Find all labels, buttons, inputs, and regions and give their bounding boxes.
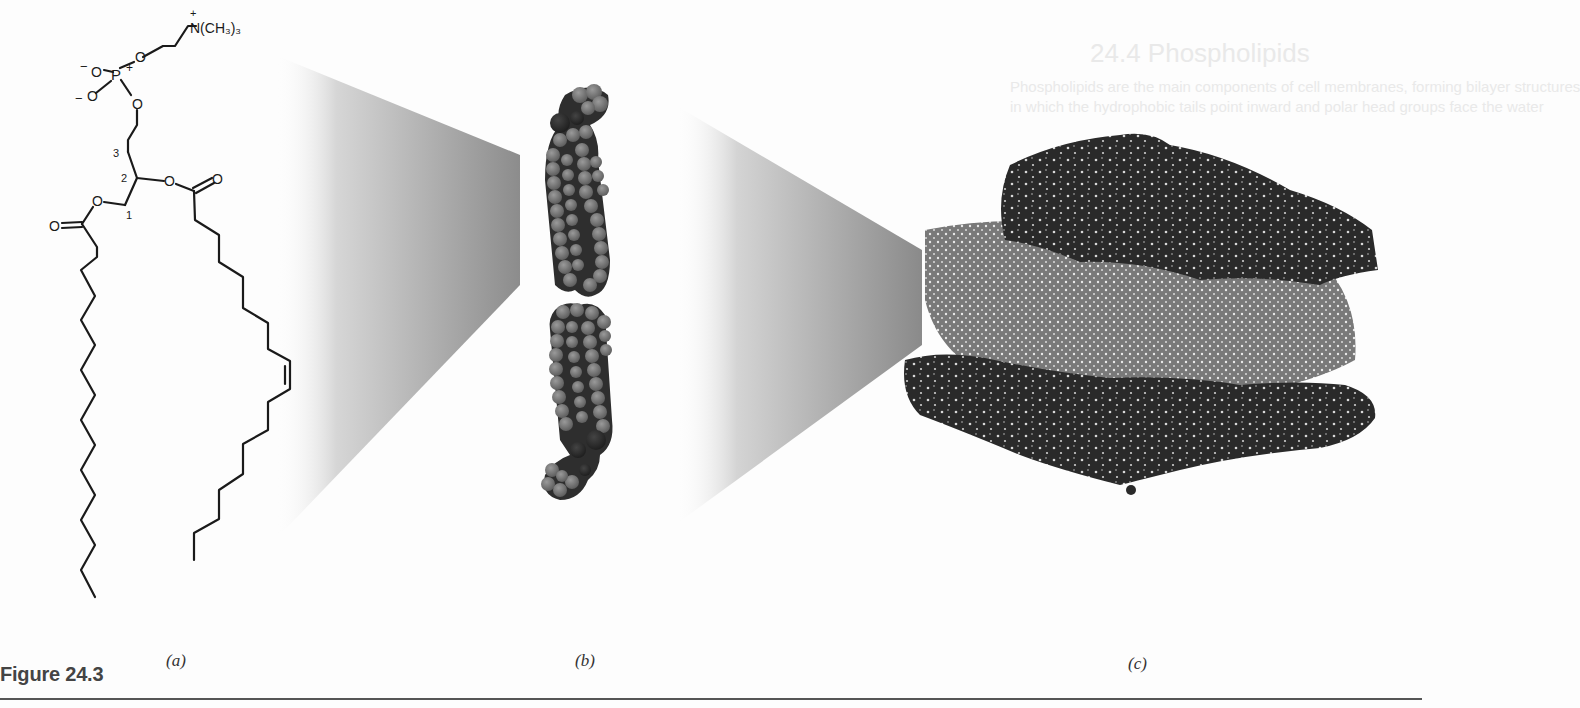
zoom-wedge-a-to-b xyxy=(275,55,520,540)
lower-phospholipid xyxy=(541,303,613,500)
oxygen-atom: O xyxy=(212,171,223,187)
oxygen-atom: O xyxy=(87,88,98,104)
structural-formula-labels: N(CH₃)₃ + O P + O − O − O 3 2 1 O O O O xyxy=(49,7,241,234)
trimethylammonium-label: N(CH₃)₃ xyxy=(190,20,241,36)
oxygen-atom: O xyxy=(91,64,102,80)
panel-label-c: (c) xyxy=(1128,654,1147,674)
ammonium-charge: + xyxy=(190,7,196,19)
caption-rule xyxy=(0,698,1422,700)
zoom-wedge-b-to-c xyxy=(675,105,922,525)
structural-formula xyxy=(62,26,290,597)
glycerol-carbon-1: 1 xyxy=(126,209,132,221)
phosphorus-atom: P xyxy=(111,66,121,83)
negative-charge: − xyxy=(75,91,83,106)
oxygen-atom: O xyxy=(164,173,175,189)
phosphorus-charge: + xyxy=(126,61,133,75)
negative-charge: − xyxy=(80,59,88,74)
oxygen-atom: O xyxy=(92,193,103,209)
panel-label-b: (b) xyxy=(575,651,595,671)
figure-caption: Figure 24.3 xyxy=(0,663,103,686)
lipid-bilayer-model xyxy=(904,134,1378,495)
space-filling-molecules xyxy=(541,84,613,500)
glycerol-carbon-3: 3 xyxy=(113,147,119,159)
panel-label-a: (a) xyxy=(166,651,186,671)
upper-phospholipid xyxy=(545,84,610,297)
oxygen-atom: O xyxy=(132,96,143,112)
oxygen-atom: O xyxy=(135,49,146,65)
oxygen-atom: O xyxy=(49,218,60,234)
glycerol-carbon-2: 2 xyxy=(121,172,127,184)
